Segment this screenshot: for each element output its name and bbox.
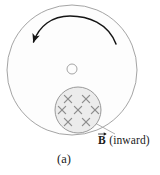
- physics-figure-panel-a: B (inward) (a): [0, 0, 160, 175]
- panel-caption: (a): [57, 152, 71, 167]
- disk-axle: [67, 64, 77, 74]
- vector-arrow-icon: [98, 131, 107, 136]
- field-symbol-b: B: [98, 134, 106, 146]
- field-direction-text: (inward): [109, 134, 149, 146]
- magnetic-field-label: B (inward): [98, 134, 150, 146]
- figure-drawing-canvas: [0, 0, 160, 175]
